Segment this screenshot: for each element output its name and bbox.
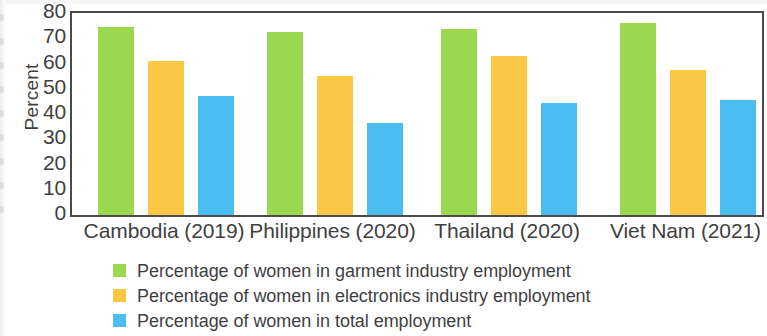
legend-label-total: Percentage of women in total employment xyxy=(137,310,471,332)
bar-group xyxy=(98,13,234,215)
bar-group xyxy=(267,13,403,215)
scan-artifact-top xyxy=(0,0,767,4)
bar xyxy=(367,123,403,215)
bars-container xyxy=(72,13,762,215)
legend-item-electronics: Percentage of women in electronics indus… xyxy=(113,283,753,308)
legend-label-garment: Percentage of women in garment industry … xyxy=(137,260,571,282)
bar xyxy=(441,29,477,215)
y-tick-70: 70 xyxy=(22,25,66,46)
y-tick-40: 40 xyxy=(22,101,66,122)
legend-swatch-orange-icon xyxy=(113,289,126,302)
legend-swatch-green-icon xyxy=(113,264,126,277)
x-label-vietnam: Viet Nam (2021) xyxy=(576,218,767,244)
y-tick-30: 30 xyxy=(22,126,66,147)
legend-item-total: Percentage of women in total employment xyxy=(113,308,753,333)
grouped-bar-chart: Percent 80 70 60 50 40 30 20 10 0 Cambod… xyxy=(0,0,767,336)
scan-artifact-left-edge xyxy=(0,0,6,336)
bar xyxy=(491,56,527,215)
bar xyxy=(720,100,756,215)
y-tick-10: 10 xyxy=(22,177,66,198)
bar-group xyxy=(441,13,577,215)
bar-group xyxy=(620,13,756,215)
bar xyxy=(267,32,303,215)
bar xyxy=(541,103,577,215)
legend-label-electronics: Percentage of women in electronics indus… xyxy=(137,285,591,307)
bar xyxy=(620,23,656,215)
y-tick-50: 50 xyxy=(22,76,66,97)
bar xyxy=(148,61,184,215)
bar xyxy=(317,76,353,215)
legend-swatch-blue-icon xyxy=(113,314,126,327)
y-tick-20: 20 xyxy=(22,152,66,173)
bar xyxy=(198,96,234,215)
bar xyxy=(98,27,134,215)
y-tick-60: 60 xyxy=(22,51,66,72)
legend-item-garment: Percentage of women in garment industry … xyxy=(113,258,753,283)
bar xyxy=(670,70,706,215)
chart-legend: Percentage of women in garment industry … xyxy=(113,258,753,333)
y-axis-tick-labels: 80 70 60 50 40 30 20 10 0 xyxy=(22,0,66,225)
x-axis-category-labels: Cambodia (2019) Philippines (2020) Thail… xyxy=(70,218,764,248)
y-tick-80: 80 xyxy=(22,0,66,21)
plot-area xyxy=(70,11,764,217)
